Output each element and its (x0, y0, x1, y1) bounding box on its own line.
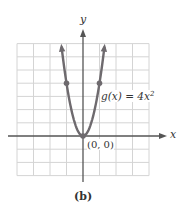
vertex-label: (0, 0) (87, 139, 114, 150)
data-point (97, 80, 103, 86)
function-label: g(x) = 4x2 (100, 90, 155, 102)
x-axis-label: x (170, 128, 176, 141)
data-point (64, 80, 70, 86)
graph-figure (0, 0, 179, 210)
function-exponent: 2 (150, 90, 154, 98)
data-point (80, 133, 86, 139)
axes (8, 29, 167, 182)
y-axis-label: y (80, 13, 86, 26)
function-name: g(x) = 4x (101, 90, 150, 102)
figure-caption: (b) (74, 190, 92, 203)
